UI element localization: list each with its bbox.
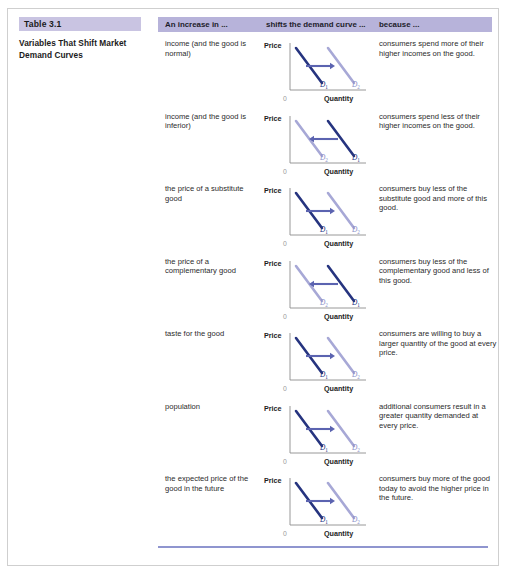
svg-text:0: 0 <box>283 313 287 320</box>
table-row: the price of a complementary goodPriceQu… <box>154 253 498 326</box>
svg-text:D2: D2 <box>351 515 360 525</box>
because-text: consumers are willing to buy a larger qu… <box>379 329 497 358</box>
svg-text:D1: D1 <box>319 515 328 525</box>
svg-text:Price: Price <box>264 259 282 268</box>
svg-text:Quantity: Quantity <box>324 312 353 321</box>
svg-text:Price: Price <box>264 476 282 485</box>
svg-text:D1: D1 <box>319 80 328 90</box>
demand-curve-chart: PriceQuantity0D1D2 <box>262 35 374 105</box>
svg-text:Quantity: Quantity <box>324 167 353 176</box>
because-text: consumers buy less of the substitute goo… <box>379 184 497 213</box>
because-text: additional consumers result in a greater… <box>379 402 497 431</box>
demand-curve-chart: PriceQuantity0D1D2 <box>262 180 374 250</box>
svg-text:D2: D2 <box>351 370 360 380</box>
svg-text:D2: D2 <box>351 225 360 235</box>
svg-text:0: 0 <box>283 95 287 102</box>
svg-text:Price: Price <box>264 114 282 123</box>
svg-text:Quantity: Quantity <box>324 94 353 103</box>
demand-curve-chart: PriceQuantity0D1D2 <box>262 108 374 178</box>
table-row: income (and the good is inferior)PriceQu… <box>154 108 498 181</box>
table-row: income (and the good is normal)PriceQuan… <box>154 35 498 108</box>
table-content: An increase in ... shifts the demand cur… <box>154 9 498 565</box>
svg-text:D1: D1 <box>319 443 328 453</box>
table-number: Table 3.1 <box>19 17 141 31</box>
table-row: the expected price of the good in the fu… <box>154 470 498 546</box>
table-figure: Table 3.1 Variables That Shift Market De… <box>7 8 499 566</box>
svg-text:0: 0 <box>283 385 287 392</box>
variable-label: the price of a complementary good <box>165 257 262 276</box>
svg-text:Price: Price <box>264 404 282 413</box>
demand-curve-chart: PriceQuantity0D1D2 <box>262 325 374 395</box>
svg-text:D2: D2 <box>319 153 328 163</box>
table-row: populationPriceQuantity0D1D2additional c… <box>154 398 498 471</box>
svg-text:0: 0 <box>283 530 287 537</box>
column-header-shift: shifts the demand curve ... <box>266 17 366 32</box>
title-panel: Table 3.1 Variables That Shift Market De… <box>8 9 154 565</box>
svg-text:D2: D2 <box>351 443 360 453</box>
svg-text:Quantity: Quantity <box>324 457 353 466</box>
svg-text:Price: Price <box>264 186 282 195</box>
svg-text:Price: Price <box>264 41 282 50</box>
because-text: consumers spend less of their higher inc… <box>379 112 497 131</box>
demand-curve-chart: PriceQuantity0D1D2 <box>262 253 374 323</box>
variable-label: income (and the good is inferior) <box>165 112 262 131</box>
variable-label: taste for the good <box>165 329 262 339</box>
svg-text:0: 0 <box>283 458 287 465</box>
svg-text:Quantity: Quantity <box>324 529 353 538</box>
variable-label: income (and the good is normal) <box>165 39 262 58</box>
svg-text:0: 0 <box>283 240 287 247</box>
svg-text:Price: Price <box>264 331 282 340</box>
column-header-because: because ... <box>379 17 419 32</box>
svg-text:D1: D1 <box>319 370 328 380</box>
variable-label: the price of a substitute good <box>165 184 262 203</box>
demand-curve-chart: PriceQuantity0D1D2 <box>262 470 374 540</box>
table-body: income (and the good is normal)PriceQuan… <box>154 35 498 546</box>
table-row: the price of a substitute goodPriceQuant… <box>154 180 498 253</box>
bottom-rule <box>158 546 488 548</box>
svg-text:Quantity: Quantity <box>324 384 353 393</box>
column-header-variable: An increase in ... <box>165 17 228 32</box>
variable-label: population <box>165 402 262 412</box>
svg-text:Quantity: Quantity <box>324 239 353 248</box>
because-text: consumers buy more of the good today to … <box>379 474 497 503</box>
table-header-row: An increase in ... shifts the demand cur… <box>158 17 492 32</box>
because-text: consumers buy less of the complementary … <box>379 257 497 286</box>
variable-label: the expected price of the good in the fu… <box>165 474 262 493</box>
svg-text:0: 0 <box>283 168 287 175</box>
svg-text:D2: D2 <box>351 80 360 90</box>
table-row: taste for the goodPriceQuantity0D1D2cons… <box>154 325 498 398</box>
svg-text:D1: D1 <box>351 298 360 308</box>
svg-text:D1: D1 <box>351 153 360 163</box>
page-title: Variables That Shift Market Demand Curve… <box>19 38 143 61</box>
svg-text:D2: D2 <box>319 298 328 308</box>
demand-curve-chart: PriceQuantity0D1D2 <box>262 398 374 468</box>
svg-text:D1: D1 <box>319 225 328 235</box>
because-text: consumers spend more of their higher inc… <box>379 39 497 58</box>
